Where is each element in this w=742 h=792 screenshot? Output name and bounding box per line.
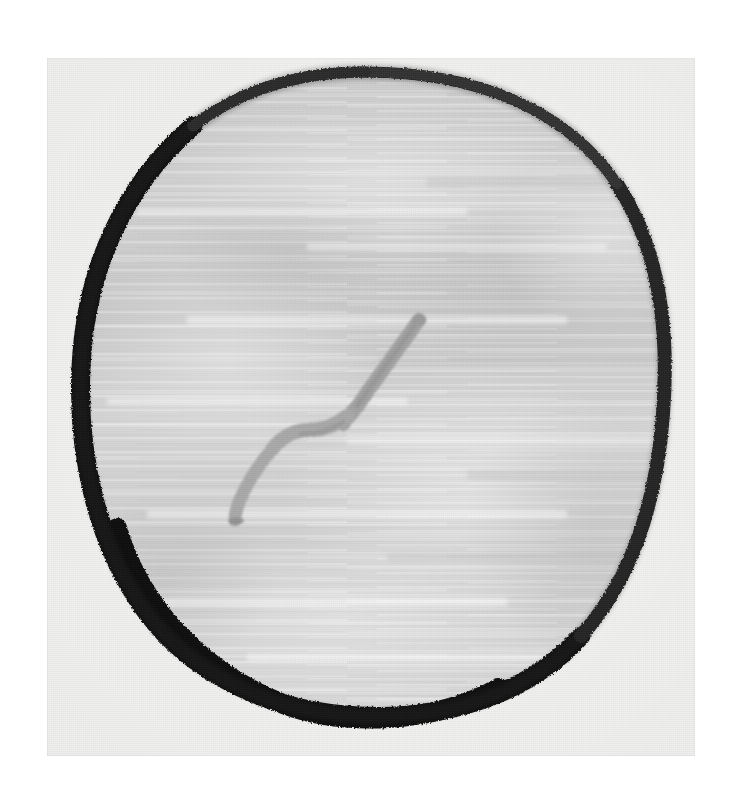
image-canvas: Photograph of a hand-drawn marker sketch… [0,0,742,792]
scanned-drawing-photo [47,58,695,756]
drawing-artwork [47,58,695,756]
